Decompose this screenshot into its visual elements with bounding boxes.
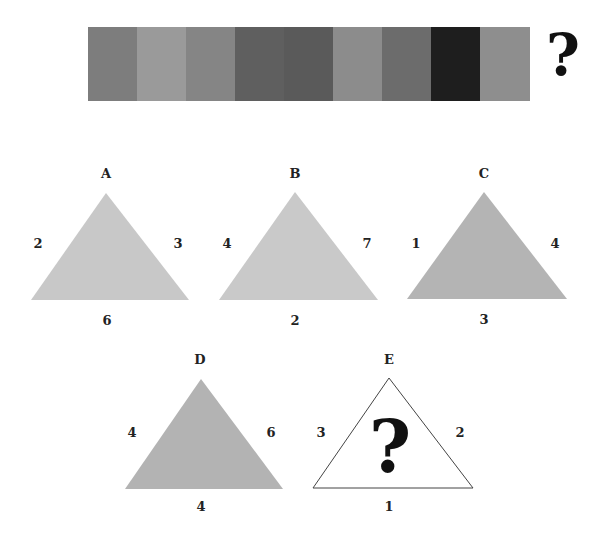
triangle-c-label: C	[479, 166, 489, 181]
triangle-e-left-value: 3	[316, 425, 325, 440]
triangle-b: B 4 7 2	[219, 166, 378, 328]
triangle-puzzle: A 2 3 6 B 4 7 2 C 1 4 3 D 4 6 4 ? E 3 2 …	[0, 0, 600, 541]
triangle-c-left-value: 1	[411, 236, 420, 251]
triangle-e-label: E	[384, 352, 394, 367]
triangle-d-bottom-value: 4	[196, 499, 205, 514]
triangle-c-right-value: 4	[550, 236, 559, 251]
triangle-d-label: D	[194, 352, 205, 367]
triangle-a-shape	[31, 193, 189, 300]
triangle-e-right-value: 2	[455, 425, 464, 440]
triangle-a-bottom-value: 6	[102, 313, 111, 328]
triangle-e-bottom-value: 1	[384, 499, 393, 514]
triangle-a-right-value: 3	[173, 236, 182, 251]
triangle-a: A 2 3 6	[31, 166, 189, 328]
triangle-b-right-value: 7	[362, 236, 371, 251]
triangle-c-bottom-value: 3	[479, 312, 488, 327]
triangle-b-bottom-value: 2	[290, 313, 299, 328]
triangle-d: D 4 6 4	[125, 352, 283, 514]
triangle-e: ? E 3 2 1	[313, 352, 473, 514]
triangle-d-shape	[125, 379, 283, 489]
triangle-b-label: B	[290, 166, 301, 181]
triangle-a-label: A	[100, 166, 112, 181]
triangle-d-right-value: 6	[266, 425, 275, 440]
triangle-d-left-value: 4	[127, 425, 136, 440]
triangle-e-question-mark: ?	[369, 404, 411, 489]
triangle-b-shape	[219, 192, 378, 300]
triangle-c-shape	[407, 192, 567, 299]
triangle-a-left-value: 2	[33, 236, 42, 251]
triangle-b-left-value: 4	[222, 236, 231, 251]
triangle-c: C 1 4 3	[407, 166, 567, 327]
